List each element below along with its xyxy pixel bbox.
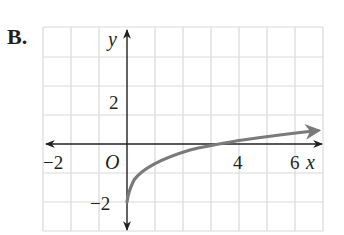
y-tick-neg2: −2 [90,193,110,214]
x-tick-6: 6 [290,152,300,173]
grid [43,27,323,231]
y-axis-label: y [106,28,117,51]
origin-label: O [105,151,119,173]
x-axis-label: x [305,151,315,173]
x-tick-neg2: −2 [43,152,63,173]
coordinate-graph: −2 O 4 6 x y 2 −2 [0,0,344,235]
y-tick-2: 2 [109,92,119,113]
x-tick-4: 4 [233,152,243,173]
